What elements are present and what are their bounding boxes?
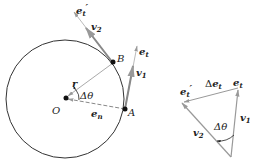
delta-theta-arc: [76, 90, 79, 100]
label-r: r: [72, 78, 78, 89]
label-e-t-right: et: [233, 77, 243, 90]
point-O: [64, 96, 69, 101]
left-circle-diagram: O A B et′ v2 et v1 r Δθ en: [6, 2, 149, 158]
point-A: [123, 107, 128, 112]
circular-motion-diagram: O A B et′ v2 et v1 r Δθ en et′ Δet et v1…: [0, 0, 255, 166]
point-B: [111, 60, 116, 65]
delta-theta-arc-right: [217, 135, 234, 141]
v1-vector: [125, 66, 133, 109]
label-v2-right: v2: [193, 127, 204, 140]
v1-vector-right: [231, 90, 238, 157]
label-delta-theta: Δθ: [79, 90, 93, 101]
label-e-t-prime: et′: [76, 2, 89, 18]
label-B: B: [116, 53, 124, 64]
label-v1: v1: [136, 67, 147, 80]
label-A: A: [127, 107, 135, 118]
label-v1-right: v1: [240, 112, 251, 125]
label-delta-e-t: Δet: [205, 78, 223, 91]
label-e-t-prime-right: et′: [180, 83, 193, 99]
label-O: O: [52, 105, 60, 116]
label-e-t: et: [139, 46, 149, 59]
label-e-n: en: [91, 108, 102, 121]
label-delta-theta-right: Δθ: [213, 121, 227, 132]
right-vector-triangle: et′ Δet et v1 v2 Δθ: [180, 77, 251, 157]
label-v2: v2: [91, 21, 102, 34]
